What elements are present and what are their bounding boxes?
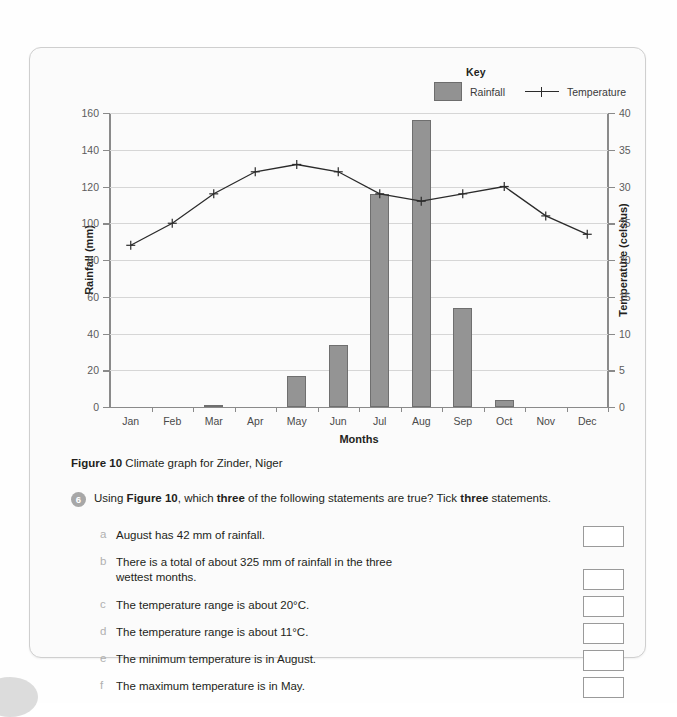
chart-legend: Key Rainfall Temperature xyxy=(434,66,634,101)
right-axis-tick xyxy=(608,113,615,114)
question-suffix: statements. xyxy=(488,492,551,504)
right-axis-tick-label: 30 xyxy=(619,181,631,193)
right-axis-tick xyxy=(608,223,615,224)
x-axis-tick xyxy=(276,407,277,412)
temperature-cross-marker-icon: Jun: 32 celsius xyxy=(334,167,343,176)
x-axis-title: Months xyxy=(339,433,378,445)
x-axis-tick-label: May xyxy=(287,415,307,427)
right-axis-tick-label: 40 xyxy=(619,107,631,119)
left-axis-tick xyxy=(103,297,110,298)
temperature-cross-marker-icon: Apr: 32 celsius xyxy=(251,167,260,176)
left-axis-tick xyxy=(103,334,110,335)
legend-rainfall-swatch-icon xyxy=(434,82,462,101)
left-axis-tick-label: 0 xyxy=(93,401,99,413)
right-axis-tick xyxy=(608,187,615,188)
x-axis-tick xyxy=(608,407,609,412)
legend-temperature-line-icon xyxy=(525,87,559,97)
statement-list: aAugust has 42 mm of rainfall.bThere is … xyxy=(100,528,620,706)
right-axis-tick xyxy=(608,150,615,151)
statement-tick-checkbox[interactable] xyxy=(583,526,624,547)
x-axis-tick-label: Jul xyxy=(373,415,386,427)
left-axis-tick xyxy=(103,150,110,151)
x-axis-tick-label: Jun xyxy=(330,415,347,427)
x-axis-tick-label: Sep xyxy=(453,415,472,427)
chart-plot-area: Rainfall (mm) Temperature (celsius) Mont… xyxy=(110,113,608,407)
temperature-cross-marker-icon: Oct: 30 celsius xyxy=(500,182,509,191)
x-axis-tick-label: Dec xyxy=(578,415,597,427)
temperature-cross-marker-icon: Jul: 29 celsius xyxy=(375,189,384,198)
left-axis-tick xyxy=(103,223,110,224)
x-axis-tick xyxy=(525,407,526,412)
x-axis-tick-label: Aug xyxy=(412,415,431,427)
x-axis-tick-label: Jan xyxy=(122,415,139,427)
right-axis-tick-label: 20 xyxy=(619,254,631,266)
right-axis-tick-label: 5 xyxy=(619,364,625,376)
right-axis-tick-label: 10 xyxy=(619,328,631,340)
x-axis-tick xyxy=(442,407,443,412)
left-axis-tick-label: 100 xyxy=(81,217,99,229)
right-axis-tick xyxy=(608,260,615,261)
left-axis-tick-label: 140 xyxy=(81,144,99,156)
statement-letter: f xyxy=(100,679,116,691)
temperature-cross-marker-icon: May: 33 celsius xyxy=(292,160,301,169)
statement-row: cThe temperature range is about 20°C. xyxy=(100,598,620,614)
left-axis-tick-label: 20 xyxy=(87,364,99,376)
figure-caption-text: Climate graph for Zinder, Niger xyxy=(122,457,282,469)
figure-caption-label: Figure 10 xyxy=(71,457,122,469)
right-axis-tick-label: 35 xyxy=(619,144,631,156)
statement-row: eThe minimum temperature is in August. xyxy=(100,652,620,668)
statement-letter: b xyxy=(100,555,116,567)
temperature-polyline xyxy=(131,165,588,246)
question-figure-ref: Figure 10 xyxy=(127,492,178,504)
left-axis-tick-label: 160 xyxy=(81,107,99,119)
x-axis-tick xyxy=(359,407,360,412)
x-axis-tick-label: Oct xyxy=(496,415,512,427)
x-axis-tick-label: Mar xyxy=(205,415,223,427)
statement-tick-checkbox[interactable] xyxy=(583,596,624,617)
worksheet-card: Key Rainfall Temperature Rainfall (mm) T… xyxy=(29,47,646,658)
question-prefix: Using xyxy=(94,492,127,504)
statement-tick-checkbox[interactable] xyxy=(583,650,624,671)
x-axis-tick xyxy=(567,407,568,412)
temperature-cross-marker-icon: Sep: 29 celsius xyxy=(458,189,467,198)
statement-tick-checkbox[interactable] xyxy=(583,677,624,698)
statement-row: fThe maximum temperature is in May. xyxy=(100,679,620,695)
x-axis-tick xyxy=(484,407,485,412)
temperature-cross-marker-icon: Mar: 29 celsius xyxy=(209,189,218,198)
statement-tick-checkbox[interactable] xyxy=(583,623,624,644)
temperature-cross-marker-icon: Feb: 25 celsius xyxy=(168,219,177,228)
left-axis-tick xyxy=(103,370,110,371)
x-axis-tick xyxy=(235,407,236,412)
statement-text: There is a total of about 325 mm of rain… xyxy=(116,555,416,586)
right-axis-tick-label: 15 xyxy=(619,291,631,303)
temperature-cross-marker-icon: Aug: 28 celsius xyxy=(417,197,426,206)
left-axis-tick xyxy=(103,260,110,261)
statement-text: August has 42 mm of rainfall. xyxy=(116,528,620,543)
question-middle-two: of the following statements are true? Ti… xyxy=(245,492,460,504)
left-axis-tick-label: 120 xyxy=(81,181,99,193)
legend-rainfall-label: Rainfall xyxy=(470,86,505,98)
statement-letter: d xyxy=(100,625,116,637)
x-axis-tick xyxy=(318,407,319,412)
statement-text: The temperature range is about 20°C. xyxy=(116,598,620,613)
legend-title: Key xyxy=(466,66,634,78)
figure-caption: Figure 10 Climate graph for Zinder, Nige… xyxy=(71,457,283,469)
x-axis-tick xyxy=(401,407,402,412)
x-axis-tick xyxy=(193,407,194,412)
left-axis-tick xyxy=(103,407,110,408)
x-axis-tick-label: Apr xyxy=(247,415,263,427)
right-axis-tick xyxy=(608,334,615,335)
question-prompt: Using Figure 10, which three of the foll… xyxy=(94,491,551,505)
temperature-line-series: Jan: 22 celsiusFeb: 25 celsiusMar: 29 ce… xyxy=(110,113,608,407)
x-axis-tick-label: Feb xyxy=(163,415,181,427)
question-middle: , which xyxy=(178,492,217,504)
statement-row: aAugust has 42 mm of rainfall. xyxy=(100,528,620,544)
statement-letter: e xyxy=(100,652,116,664)
legend-temperature-label: Temperature xyxy=(567,86,626,98)
statement-letter: c xyxy=(100,598,116,610)
climate-chart: Key Rainfall Temperature Rainfall (mm) T… xyxy=(30,48,647,440)
statement-row: bThere is a total of about 325 mm of rai… xyxy=(100,555,620,586)
right-axis-tick xyxy=(608,297,615,298)
left-axis-tick-label: 80 xyxy=(87,254,99,266)
statement-tick-checkbox[interactable] xyxy=(583,569,624,590)
